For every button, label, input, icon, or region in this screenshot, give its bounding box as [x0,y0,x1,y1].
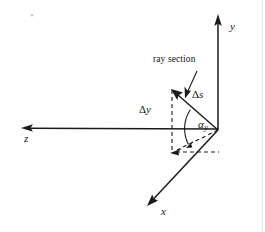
z-axis [21,124,218,132]
alpha-y-label: αy [198,119,208,132]
alpha-symbol: α [198,118,204,130]
delta-s-label: Δs [192,89,203,100]
leader-arrowhead [185,86,191,98]
diagonal-projection-dashed [177,130,218,150]
x-axis [147,130,218,206]
y-axis-label: y [230,21,235,32]
delta-y-label: Δy [139,104,151,115]
x-axis-label: x [161,206,166,217]
ray-section-caption: ray section [153,55,196,65]
z-axis-label: z [24,133,28,144]
delta-y-variable: y [146,103,151,115]
ray-section-diagram: y z x Δs Δy αy ray section [0,0,265,232]
scan-speck [30,13,33,16]
y-axis [214,14,222,130]
delta-s-variable: s [199,88,203,100]
diagram-canvas [0,0,265,232]
alpha-subscript: y [204,123,208,132]
